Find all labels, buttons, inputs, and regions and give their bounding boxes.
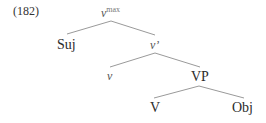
node-vmax-superscript: max bbox=[106, 5, 120, 14]
node-v-bar: v’ bbox=[150, 39, 159, 51]
node-vp: VP bbox=[191, 70, 209, 84]
node-v-head: v bbox=[107, 70, 112, 82]
branch-vp-verb bbox=[154, 86, 199, 98]
node-vmax: vmax bbox=[101, 6, 120, 19]
branch-vp-object bbox=[199, 86, 244, 98]
branch-vmax-vbar bbox=[111, 21, 155, 35]
node-object: Obj bbox=[232, 101, 253, 115]
branch-vbar-v bbox=[110, 53, 155, 67]
node-subject: Suj bbox=[57, 38, 76, 52]
example-number: (182) bbox=[13, 5, 39, 17]
branch-vmax-suj bbox=[67, 21, 111, 34]
tree-branches bbox=[0, 0, 266, 123]
node-verb: V bbox=[150, 101, 160, 115]
branch-vbar-vp bbox=[155, 53, 200, 67]
